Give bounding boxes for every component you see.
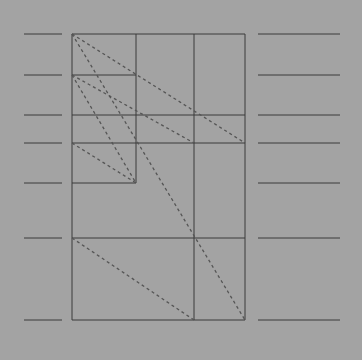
diagonal-1 [72, 34, 245, 143]
diagonal-5 [72, 143, 136, 183]
diagonal-3 [72, 75, 194, 143]
diagram-canvas [0, 0, 362, 360]
dashed-diagonals [72, 34, 245, 320]
diagonal-6 [72, 238, 194, 320]
diagonal-2 [72, 34, 245, 320]
right-guide-stubs [258, 34, 340, 320]
diagonal-4 [72, 75, 136, 183]
left-guide-stubs [24, 34, 62, 320]
